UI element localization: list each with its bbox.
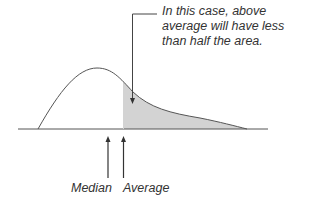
annotation-text: In this case, above average will have le… — [162, 4, 284, 49]
annotation-line-1: In this case, above — [162, 4, 284, 19]
annotation-line-3: than half the area. — [162, 34, 284, 49]
average-label: Average — [123, 181, 169, 195]
annotation-leader-line — [133, 14, 158, 101]
median-label: Median — [71, 181, 112, 195]
annotation-line-2: average will have less — [162, 19, 284, 34]
shaded-area — [38, 68, 247, 129]
median-arrowhead-icon — [106, 136, 111, 142]
average-arrowhead-icon — [121, 136, 126, 142]
